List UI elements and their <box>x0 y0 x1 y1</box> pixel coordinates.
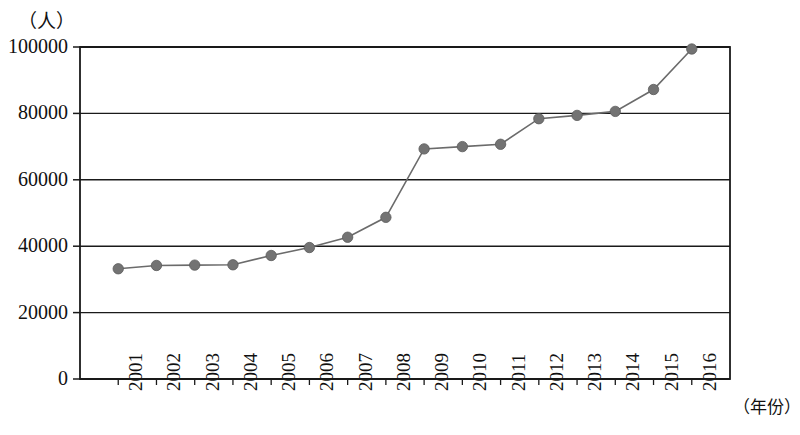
data-point-marker <box>381 212 391 222</box>
data-point-marker <box>534 114 544 124</box>
series-markers <box>113 44 697 274</box>
series-line <box>118 49 692 269</box>
data-point-marker <box>113 264 123 274</box>
data-point-marker <box>457 141 467 151</box>
data-point-marker <box>687 44 697 54</box>
data-point-marker <box>151 260 161 270</box>
data-point-marker <box>419 144 429 154</box>
gridlines <box>80 47 730 379</box>
data-point-marker <box>304 242 314 252</box>
data-point-marker <box>266 250 276 260</box>
y-axis-tick-marks <box>73 47 80 379</box>
data-point-marker <box>342 232 352 242</box>
chart-canvas <box>0 0 800 435</box>
data-point-marker <box>648 84 658 94</box>
data-point-marker <box>572 110 582 120</box>
plot-frame <box>80 47 730 379</box>
line-chart: （人） （年份） 020000400006000080000100000 200… <box>0 0 800 435</box>
data-point-marker <box>190 260 200 270</box>
data-point-marker <box>228 260 238 270</box>
data-point-marker <box>610 106 620 116</box>
plot-border <box>80 47 730 379</box>
data-point-marker <box>495 139 505 149</box>
